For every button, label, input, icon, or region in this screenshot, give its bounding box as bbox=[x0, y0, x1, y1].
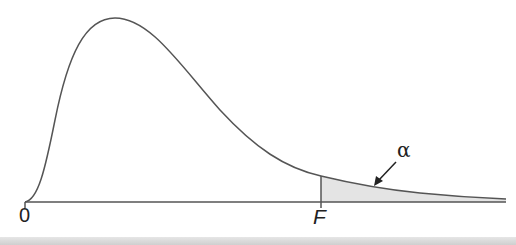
bottom-edge-band bbox=[0, 237, 516, 245]
alpha-label: α bbox=[397, 138, 411, 162]
chart-canvas bbox=[0, 0, 516, 245]
f-distribution-chart: 0 F α bbox=[0, 0, 516, 245]
alpha-arrow-shaft bbox=[378, 162, 396, 181]
density-curve bbox=[25, 18, 506, 202]
origin-label: 0 bbox=[19, 204, 30, 227]
critical-value-label: F bbox=[313, 205, 326, 229]
